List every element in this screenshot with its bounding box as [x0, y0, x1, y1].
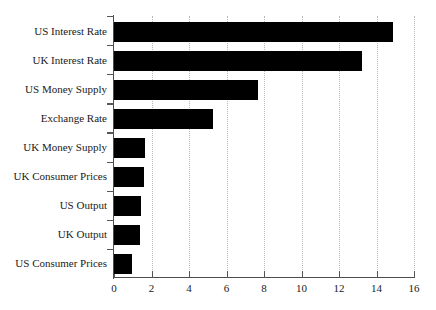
x-axis-tick-label: 10 — [287, 282, 317, 295]
y-axis-tick — [107, 16, 114, 17]
x-axis-tick-label: 2 — [137, 282, 167, 295]
x-axis-tick — [414, 271, 415, 278]
y-axis-tick — [107, 103, 114, 104]
y-axis-tick — [107, 162, 114, 163]
y-axis-tick — [107, 132, 114, 133]
bar — [114, 51, 362, 71]
x-axis-tick — [227, 271, 228, 278]
y-axis-tick — [107, 45, 114, 46]
x-axis-tick-label: 0 — [99, 282, 129, 295]
x-axis-tick — [377, 271, 378, 278]
category-label: UK Money Supply — [0, 141, 107, 154]
category-label: US Output — [0, 199, 107, 212]
bar — [114, 22, 393, 42]
category-label: US Money Supply — [0, 83, 107, 96]
gridline — [377, 16, 378, 278]
y-axis-tick — [107, 220, 114, 221]
bar-chart: 0246810121416 US Interest RateUK Interes… — [0, 0, 436, 310]
x-axis-tick-label: 16 — [399, 282, 429, 295]
x-axis-tick-label: 8 — [249, 282, 279, 295]
x-axis-tick-label: 14 — [362, 282, 392, 295]
gridline — [414, 16, 415, 278]
bar — [114, 167, 144, 187]
x-axis-tick — [189, 271, 190, 278]
category-label: US Consumer Prices — [0, 257, 107, 270]
y-axis-tick — [107, 249, 114, 250]
x-axis-tick-label: 4 — [174, 282, 204, 295]
category-label: UK Interest Rate — [0, 54, 107, 67]
category-label: Exchange Rate — [0, 112, 107, 125]
x-axis-tick — [339, 271, 340, 278]
category-label: UK Output — [0, 228, 107, 241]
x-axis-tick — [264, 271, 265, 278]
bar — [114, 196, 141, 216]
x-axis-tick — [302, 271, 303, 278]
y-axis-tick — [107, 74, 114, 75]
bar — [114, 138, 145, 158]
category-label: UK Consumer Prices — [0, 170, 107, 183]
bar — [114, 80, 258, 100]
x-axis-tick-label: 12 — [324, 282, 354, 295]
x-axis-tick-label: 6 — [212, 282, 242, 295]
y-axis-tick — [107, 191, 114, 192]
bar — [114, 225, 140, 245]
x-axis-tick — [152, 271, 153, 278]
category-label: US Interest Rate — [0, 25, 107, 38]
bar — [114, 254, 132, 274]
bar — [114, 109, 213, 129]
